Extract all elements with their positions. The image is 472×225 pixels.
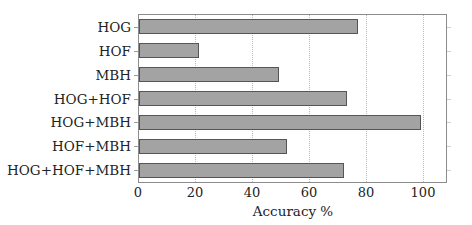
y-category-label: HOF xyxy=(99,43,131,59)
y-category-label: MBH xyxy=(95,67,131,83)
y-tick-mark xyxy=(134,170,138,171)
y-tick-mark xyxy=(134,122,138,123)
y-tick-mark xyxy=(134,99,138,100)
y-tick-mark xyxy=(134,27,138,28)
plot-area xyxy=(138,14,447,183)
bar-hof xyxy=(139,43,199,58)
y-tick-mark-right xyxy=(447,146,451,147)
y-category-label: HOG xyxy=(97,19,131,35)
y-tick-mark-right xyxy=(447,170,451,171)
x-tick-label: 100 xyxy=(411,185,436,201)
y-tick-mark-right xyxy=(447,99,451,100)
y-tick-mark xyxy=(134,51,138,52)
y-category-label: HOG+MBH xyxy=(51,114,131,130)
bar-hog xyxy=(139,19,358,34)
bar-mbh xyxy=(139,67,279,82)
x-tick-label: 60 xyxy=(301,185,318,201)
x-gridline xyxy=(366,15,367,182)
x-tick-label: 20 xyxy=(187,185,204,201)
bar-hog-mbh xyxy=(139,115,421,130)
y-category-label: HOG+HOF+MBH xyxy=(7,162,131,178)
y-tick-mark-right xyxy=(447,51,451,52)
accuracy-bar-chart: Accuracy % 020406080100HOGHOFMBHHOG+HOFH… xyxy=(0,0,472,225)
x-gridline xyxy=(423,15,424,182)
x-axis-title: Accuracy % xyxy=(253,202,333,220)
y-tick-mark xyxy=(134,75,138,76)
y-category-label: HOF+MBH xyxy=(52,138,131,154)
x-tick-label: 40 xyxy=(244,185,261,201)
bar-hof-mbh xyxy=(139,139,287,154)
y-tick-mark-right xyxy=(447,122,451,123)
y-tick-mark xyxy=(134,146,138,147)
bar-hog-hof xyxy=(139,91,347,106)
x-tick-label: 80 xyxy=(358,185,375,201)
bar-hog-hof-mbh xyxy=(139,163,344,178)
y-category-label: HOG+HOF xyxy=(54,91,131,107)
y-tick-mark-right xyxy=(447,75,451,76)
x-tick-label: 0 xyxy=(134,185,142,201)
y-tick-mark-right xyxy=(447,27,451,28)
